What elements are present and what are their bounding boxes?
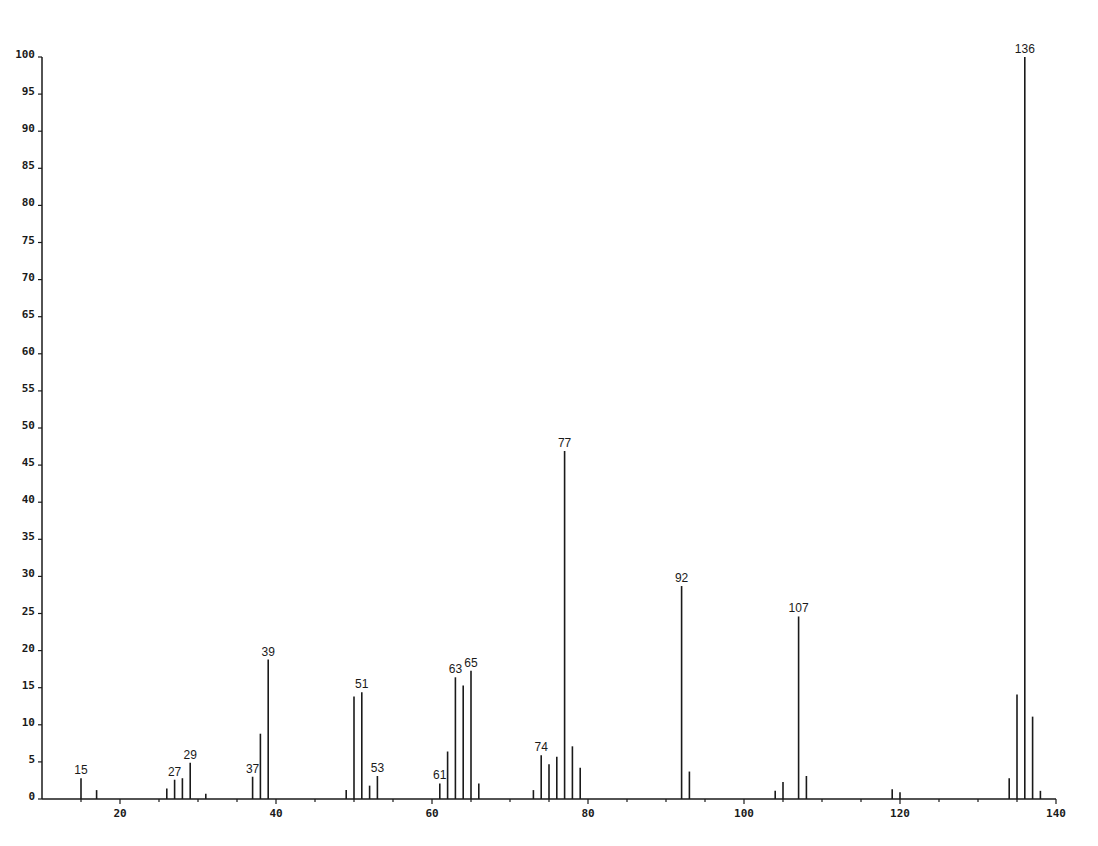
y-tick-label: 90 bbox=[22, 122, 35, 135]
peak-label: 15 bbox=[74, 763, 88, 777]
y-tick-label: 50 bbox=[22, 419, 35, 432]
peak-label: 74 bbox=[535, 740, 549, 754]
peak-label: 37 bbox=[246, 762, 260, 776]
peak-label: 107 bbox=[789, 601, 809, 615]
x-tick-label: 100 bbox=[734, 807, 754, 820]
y-tick-label: 95 bbox=[22, 85, 35, 98]
peak-label: 61 bbox=[433, 768, 447, 782]
y-tick-label: 35 bbox=[22, 530, 35, 543]
peak-label: 77 bbox=[558, 436, 572, 450]
y-tick-label: 30 bbox=[22, 567, 35, 580]
y-tick-label: 55 bbox=[22, 382, 35, 395]
peak-label: 136 bbox=[1015, 42, 1035, 56]
x-tick-label: 80 bbox=[581, 807, 594, 820]
peak-label: 53 bbox=[371, 761, 385, 775]
y-tick-label: 15 bbox=[22, 679, 35, 692]
peak-labels: 15272937395153616365747792107136 bbox=[74, 42, 1035, 782]
y-axis: 0510152025303540455055606570758085909510… bbox=[15, 48, 42, 803]
y-tick-label: 20 bbox=[22, 642, 35, 655]
y-tick-label: 80 bbox=[22, 196, 35, 209]
peak-label: 63 bbox=[449, 662, 463, 676]
y-tick-label: 40 bbox=[22, 493, 35, 506]
mass-spectrum-chart: 0510152025303540455055606570758085909510… bbox=[0, 0, 1098, 846]
y-tick-label: 5 bbox=[28, 753, 35, 766]
y-tick-label: 85 bbox=[22, 159, 35, 172]
peak-label: 65 bbox=[464, 656, 478, 670]
peak-label: 29 bbox=[184, 748, 198, 762]
peak-label: 51 bbox=[355, 677, 369, 691]
y-tick-label: 60 bbox=[22, 345, 35, 358]
y-tick-label: 10 bbox=[22, 716, 35, 729]
peak-label: 92 bbox=[675, 571, 689, 585]
y-tick-label: 0 bbox=[28, 790, 35, 803]
x-tick-label: 20 bbox=[113, 807, 126, 820]
y-tick-label: 75 bbox=[22, 234, 35, 247]
y-tick-label: 100 bbox=[15, 48, 35, 61]
peak-label: 39 bbox=[262, 645, 276, 659]
x-axis: 20406080100120140 bbox=[42, 799, 1066, 820]
y-tick-label: 70 bbox=[22, 271, 35, 284]
peak-series bbox=[81, 57, 1040, 799]
y-tick-label: 45 bbox=[22, 456, 35, 469]
x-tick-label: 120 bbox=[890, 807, 910, 820]
x-tick-label: 40 bbox=[269, 807, 282, 820]
peak-label: 27 bbox=[168, 765, 182, 779]
y-tick-label: 65 bbox=[22, 308, 35, 321]
x-tick-label: 60 bbox=[425, 807, 438, 820]
y-tick-label: 25 bbox=[22, 605, 35, 618]
x-tick-label: 140 bbox=[1046, 807, 1066, 820]
